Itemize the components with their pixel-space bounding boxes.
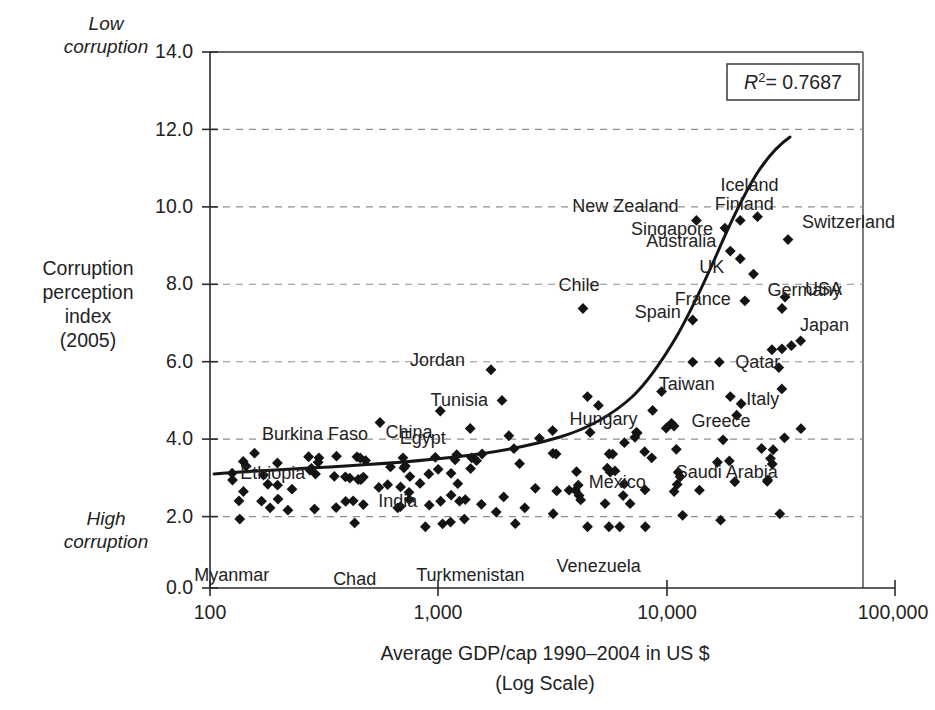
- low-corruption-note: Low corruption: [64, 13, 149, 57]
- ytick-label-0: 0.0: [166, 576, 193, 598]
- country-label: India: [378, 491, 418, 511]
- scatter-point: [548, 508, 559, 519]
- scatter-point: [433, 464, 444, 475]
- scatter-point: [497, 395, 508, 406]
- scatter-point: [435, 496, 446, 507]
- scatter-point: [331, 502, 342, 513]
- scatter-point: [415, 478, 426, 489]
- scatter-point: [459, 514, 470, 525]
- x-axis-title-line-2: (Log Scale): [495, 672, 595, 694]
- scatter-point: [382, 479, 393, 490]
- country-label: Mexico: [589, 472, 646, 492]
- y-tick-labels: 14.0 12.0 10.0 8.0 6.0 4.0 2.0 0.0: [155, 40, 193, 598]
- scatter-point: [735, 215, 746, 226]
- xtick-label-10000: 10,000: [637, 601, 697, 623]
- country-label: Chile: [558, 275, 599, 295]
- scatter-point: [795, 335, 806, 346]
- ytick-label-10: 10.0: [155, 195, 193, 217]
- scatter-point: [309, 504, 320, 515]
- scatter-point: [476, 499, 487, 510]
- scatter-point: [238, 486, 249, 497]
- country-label: Hungary: [569, 409, 637, 429]
- country-label: Iceland: [721, 175, 779, 195]
- scatter-point: [446, 490, 457, 501]
- ytick-label-8: 8.0: [166, 272, 193, 294]
- country-label: Greece: [692, 411, 751, 431]
- y-axis-title-line-2: perception: [42, 281, 133, 303]
- high-corruption-note: High corruption: [64, 508, 149, 552]
- scatter-point: [340, 496, 351, 507]
- country-label: USA: [805, 279, 842, 299]
- scatter-point: [424, 500, 435, 511]
- scatter-point: [582, 391, 593, 402]
- country-label: France: [675, 289, 731, 309]
- xtick-label-100: 100: [194, 601, 227, 623]
- country-label: Venezuela: [557, 556, 642, 576]
- scatter-point: [303, 451, 314, 462]
- scatter-point: [600, 498, 611, 509]
- scatter-point: [349, 518, 360, 529]
- scatter-point: [329, 471, 340, 482]
- scatter-point: [739, 295, 750, 306]
- scatter-point: [358, 499, 369, 510]
- scatter-point: [519, 502, 530, 513]
- country-label: Italy: [746, 389, 779, 409]
- scatter-point: [718, 434, 729, 445]
- scatter-point: [715, 515, 726, 526]
- scatter-point: [687, 357, 698, 368]
- scatter-point: [446, 468, 457, 479]
- xtick-label-1000: 1,000: [414, 601, 463, 623]
- scatter-point: [783, 234, 794, 245]
- scatter-point: [283, 505, 294, 516]
- scatter-point: [646, 452, 657, 463]
- r-squared-exponent: 2: [758, 70, 765, 85]
- chart-canvas: 14.0 12.0 10.0 8.0 6.0 4.0 2.0 0.0 100 1…: [0, 0, 935, 710]
- scatter-point: [779, 432, 790, 443]
- scatter-point: [423, 469, 434, 480]
- scatter-point: [287, 484, 298, 495]
- scatter-point: [756, 443, 767, 454]
- country-label: Australia: [646, 231, 717, 251]
- x-axis-title: Average GDP/cap 1990–2004 in US $ (Log S…: [380, 642, 709, 694]
- scatter-point: [768, 444, 779, 455]
- country-label: Finland: [715, 194, 774, 214]
- country-label: Spain: [635, 302, 681, 322]
- scatter-point: [331, 451, 342, 462]
- country-label: Jordan: [410, 350, 465, 370]
- r-squared-symbol: R: [744, 71, 758, 93]
- country-label: Switzerland: [802, 212, 895, 232]
- scatter-point: [647, 405, 658, 416]
- scatter-point: [694, 485, 705, 496]
- high-corruption-line-2: corruption: [64, 531, 149, 552]
- scatter-point: [571, 466, 582, 477]
- y-axis-title: Corruption perception index (2005): [42, 257, 133, 351]
- scatter-point: [514, 458, 525, 469]
- scatter-point: [604, 521, 615, 532]
- scatter-point: [639, 446, 650, 457]
- scatter-point: [582, 521, 593, 532]
- country-label: Turkmenistan: [416, 565, 524, 585]
- scatter-point: [677, 510, 688, 521]
- scatter-point: [249, 448, 260, 459]
- scatter-point: [227, 475, 238, 486]
- country-label: Chad: [333, 569, 376, 589]
- ytick-label-4: 4.0: [166, 427, 193, 449]
- scatter-point: [437, 518, 448, 529]
- scatter-point: [256, 496, 267, 507]
- country-label: Ethiopia: [240, 463, 306, 483]
- scatter-point: [777, 303, 788, 314]
- scatter-point: [486, 364, 497, 375]
- scatter-point: [375, 417, 386, 428]
- ytick-label-14: 14.0: [155, 40, 193, 62]
- y-axis-title-line-1: Corruption: [42, 257, 133, 279]
- scatter-point: [625, 498, 636, 509]
- scatter-point: [452, 478, 463, 489]
- scatter-point: [714, 357, 725, 368]
- country-label: UK: [699, 257, 724, 277]
- scatter-point: [796, 423, 807, 434]
- country-label: Japan: [800, 315, 849, 335]
- country-label: Myanmar: [194, 565, 269, 585]
- y-axis-title-line-4: (2005): [60, 329, 116, 351]
- low-corruption-line-1: Low: [89, 13, 125, 34]
- scatter-point: [420, 521, 431, 532]
